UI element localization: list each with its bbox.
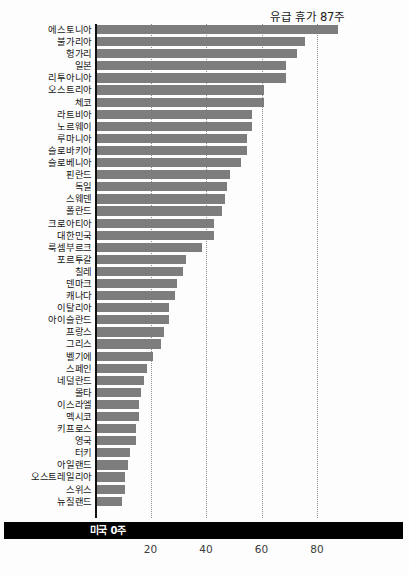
bar-category-label: 영국 <box>3 435 95 446</box>
bar-row: 뉴질랜드 <box>0 496 409 508</box>
bar <box>97 267 183 276</box>
bar <box>97 170 230 179</box>
bar-fill <box>97 37 305 46</box>
bar-category-label: 대한민국 <box>3 230 95 241</box>
bar-row: 벨기에 <box>0 351 409 363</box>
bar-fill <box>97 25 338 34</box>
bar-category-label: 이스라엘 <box>3 399 95 410</box>
x-tick-label-40: 40 <box>186 543 226 555</box>
bar-fill <box>97 376 144 385</box>
bar-category-label: 오스트리아 <box>3 84 95 95</box>
bar-fill <box>97 73 286 82</box>
usa-highlight-label: 미국 0주 <box>4 522 132 539</box>
bar-row: 멕시코 <box>0 411 409 423</box>
bar-fill <box>97 472 125 481</box>
bar-row: 불가리아 <box>0 36 409 48</box>
bar-category-label: 멕시코 <box>3 411 95 422</box>
bar-fill <box>97 170 230 179</box>
bar-fill <box>97 122 252 131</box>
bar-row: 이스라엘 <box>0 399 409 411</box>
bar-fill <box>97 327 164 336</box>
bar-fill <box>97 412 139 421</box>
bar-category-label: 독일 <box>3 181 95 192</box>
bar-category-label: 오스트레일리아 <box>3 471 95 482</box>
bar <box>97 448 130 457</box>
bar-row: 에스토니아 <box>0 24 409 36</box>
bar-category-label: 포르투갈 <box>3 254 95 265</box>
bar-category-label: 루마니아 <box>3 133 95 144</box>
bar-row: 몰타 <box>0 387 409 399</box>
bar-row: 루마니아 <box>0 133 409 145</box>
bar-fill <box>97 219 214 228</box>
bar-row: 포르투갈 <box>0 254 409 266</box>
bar-category-label: 리투아니아 <box>3 72 95 83</box>
bar-category-label: 일본 <box>3 60 95 71</box>
bar <box>97 61 286 70</box>
bar-row: 리투아니아 <box>0 72 409 84</box>
bar <box>97 206 222 215</box>
bar-row: 덴마크 <box>0 278 409 290</box>
bar-fill <box>97 352 153 361</box>
bar-category-label: 터키 <box>3 447 95 458</box>
bar-row: 체코 <box>0 97 409 109</box>
bar-row: 키프로스 <box>0 423 409 435</box>
bar-category-label: 크로아티아 <box>3 218 95 229</box>
x-tick-label-80: 80 <box>297 543 337 555</box>
bar <box>97 291 175 300</box>
x-axis-tick-labels: 20406080 <box>0 543 409 563</box>
bar <box>97 279 177 288</box>
bar <box>97 339 161 348</box>
bar <box>97 497 122 506</box>
bar-row: 핀란드 <box>0 169 409 181</box>
bar-row: 스페인 <box>0 363 409 375</box>
bar-fill <box>97 303 169 312</box>
bar-fill <box>97 194 225 203</box>
bar-row: 스웨덴 <box>0 193 409 205</box>
usa-highlight-bar: 미국 0주 <box>4 522 403 539</box>
bar <box>97 122 252 131</box>
bar-fill <box>97 146 247 155</box>
bar <box>97 73 286 82</box>
bar-fill <box>97 424 136 433</box>
bar-row: 터키 <box>0 447 409 459</box>
bar-fill <box>97 436 136 445</box>
bar-category-label: 불가리아 <box>3 36 95 47</box>
bar-fill <box>97 400 139 409</box>
bar <box>97 146 247 155</box>
bar-row: 노르웨이 <box>0 121 409 133</box>
bar <box>97 485 125 494</box>
bar-category-label: 핀란드 <box>3 169 95 180</box>
bar <box>97 194 225 203</box>
bar-fill <box>97 315 169 324</box>
bar <box>97 98 264 107</box>
bar-row: 아이슬란드 <box>0 314 409 326</box>
bar-fill <box>97 267 183 276</box>
bar <box>97 182 227 191</box>
x-tick-label-20: 20 <box>131 543 171 555</box>
bar-category-label: 헝가리 <box>3 48 95 59</box>
bar <box>97 364 147 373</box>
bar <box>97 134 247 143</box>
bar-fill <box>97 61 286 70</box>
bar-category-label: 칠레 <box>3 266 95 277</box>
bar-row: 헝가리 <box>0 48 409 60</box>
bar-fill <box>97 98 264 107</box>
bar-row: 슬로바키아 <box>0 145 409 157</box>
bar <box>97 400 139 409</box>
x-tick-label-60: 60 <box>242 543 282 555</box>
bar-category-label: 스웨덴 <box>3 193 95 204</box>
bar-category-label: 몰타 <box>3 387 95 398</box>
bar <box>97 110 252 119</box>
bar-fill <box>97 49 297 58</box>
bar <box>97 327 164 336</box>
bar-category-label: 노르웨이 <box>3 121 95 132</box>
bar-category-label: 뉴질랜드 <box>3 496 95 507</box>
bar-category-label: 슬로바키아 <box>3 145 95 156</box>
bar-row: 슬로베니아 <box>0 157 409 169</box>
bar-category-label: 체코 <box>3 97 95 108</box>
bar-fill <box>97 279 177 288</box>
bar-fill <box>97 291 175 300</box>
bar-row: 라트비아 <box>0 109 409 121</box>
bar-fill <box>97 339 161 348</box>
bar-category-label: 그리스 <box>3 338 95 349</box>
